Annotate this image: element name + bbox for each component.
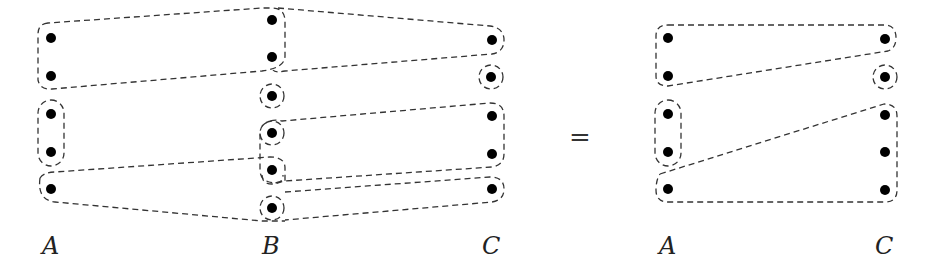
left-composition: A B C <box>38 8 504 260</box>
result-label-c: C <box>875 232 893 260</box>
result-point-c4 <box>880 147 890 157</box>
point-b6 <box>267 203 277 213</box>
point-a4 <box>46 147 56 157</box>
result-point-c2 <box>880 72 890 82</box>
label-b: B <box>261 232 280 260</box>
result-point-a5 <box>663 184 673 194</box>
right-result: A C <box>655 25 897 260</box>
relation-composition-diagram: A B C = A C <box>0 0 929 275</box>
point-b2 <box>267 52 277 62</box>
result-blob-a5-c345 <box>656 104 897 202</box>
label-a: A <box>40 232 59 260</box>
result-point-a2 <box>663 71 673 81</box>
blob-b45-c34 <box>260 103 504 183</box>
result-point-a4 <box>663 147 673 157</box>
result-point-a3 <box>663 109 673 119</box>
point-a5 <box>46 184 56 194</box>
blob-a5-b5 <box>40 157 285 183</box>
point-c5 <box>487 184 497 194</box>
point-b5 <box>267 165 277 175</box>
point-a1 <box>46 33 56 43</box>
result-point-c3 <box>880 110 890 120</box>
label-c: C <box>482 232 500 260</box>
blob-b12-c1 <box>273 8 504 72</box>
point-c4 <box>487 149 497 159</box>
point-a3 <box>46 109 56 119</box>
result-point-c5 <box>880 185 890 195</box>
point-c3 <box>487 111 497 121</box>
result-point-a1 <box>663 33 673 43</box>
point-b1 <box>267 15 277 25</box>
point-a2 <box>46 71 56 81</box>
result-point-c1 <box>880 34 890 44</box>
blob-a5-b6 <box>40 178 285 221</box>
point-c2 <box>486 72 496 82</box>
point-c1 <box>487 35 497 45</box>
point-b4 <box>267 128 277 138</box>
blob-a12-b12 <box>38 8 285 89</box>
result-label-a: A <box>657 232 676 260</box>
blob-b5-lower <box>262 175 283 184</box>
point-b3 <box>267 91 277 101</box>
result-blob-a12-c1 <box>656 25 896 86</box>
blob-b6-c5 <box>285 177 504 220</box>
equals-sign: = <box>569 122 591 152</box>
